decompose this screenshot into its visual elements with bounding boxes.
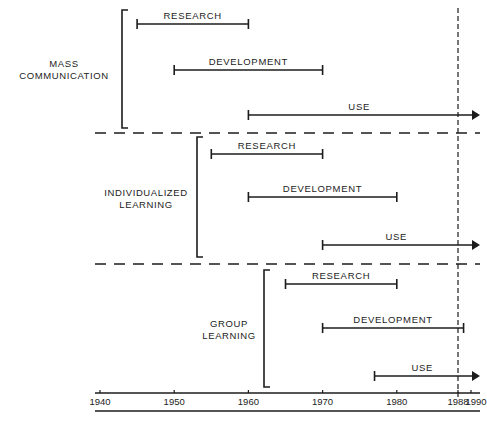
tick-label-1980: 1980	[386, 396, 407, 407]
arrow-head-icon	[472, 371, 480, 381]
research-label: RESEARCH	[286, 270, 397, 281]
use-label: USE	[248, 101, 470, 112]
development-label: DEVELOPMENT	[174, 56, 322, 67]
development-label: DEVELOPMENT	[248, 183, 396, 194]
group-label-group-learning: GROUP LEARNING	[195, 318, 263, 342]
tick-label-1940: 1940	[89, 396, 110, 407]
development-label: DEVELOPMENT	[323, 314, 464, 325]
arrow-head-icon	[472, 110, 480, 120]
group-label-line: GROUP	[195, 318, 263, 330]
individualized-learning-bracket	[197, 137, 203, 257]
tick-label-1970: 1970	[312, 396, 333, 407]
research-label: RESEARCH	[211, 140, 322, 151]
group-label-individualized-learning: INDIVIDUALIZED LEARNING	[96, 187, 196, 211]
mass-communication-bracket	[122, 10, 128, 128]
group-label-line: COMMUNICATION	[10, 70, 118, 82]
tick-label-1990: 1990	[465, 396, 486, 407]
research-label: RESEARCH	[137, 10, 248, 21]
group-label-mass-communication: MASS COMMUNICATION	[10, 58, 118, 82]
use-label: USE	[375, 362, 470, 373]
arrow-head-icon	[472, 240, 480, 250]
tick-label-1950: 1950	[164, 396, 185, 407]
group-label-line: LEARNING	[96, 199, 196, 211]
group-label-line: LEARNING	[195, 330, 263, 342]
group-label-line: INDIVIDUALIZED	[96, 187, 196, 199]
group-label-line: MASS	[10, 58, 118, 70]
use-label: USE	[323, 231, 470, 242]
tick-label-1960: 1960	[238, 396, 259, 407]
group-learning-bracket	[264, 270, 270, 387]
